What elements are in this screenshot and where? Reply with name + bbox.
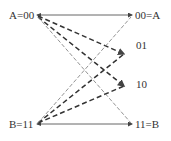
node-b-left-label: B=11 — [9, 119, 33, 130]
edge-a-to-01 — [38, 16, 124, 54]
edge-b-to-01 — [38, 54, 124, 123]
edge-b-to-10 — [38, 86, 124, 123]
node-01-label: 01 — [136, 40, 147, 51]
node-a-right-label: 00=A — [135, 10, 160, 21]
node-b-right-label: 11=B — [135, 119, 159, 130]
edge-a-to-10 — [38, 17, 124, 86]
node-10-label: 10 — [136, 79, 147, 90]
node-a-left-label: A=00 — [9, 10, 34, 21]
